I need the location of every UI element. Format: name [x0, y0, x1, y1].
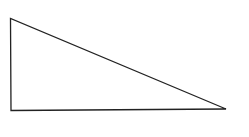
right-triangle	[11, 19, 227, 111]
diagram-canvas	[0, 0, 249, 137]
